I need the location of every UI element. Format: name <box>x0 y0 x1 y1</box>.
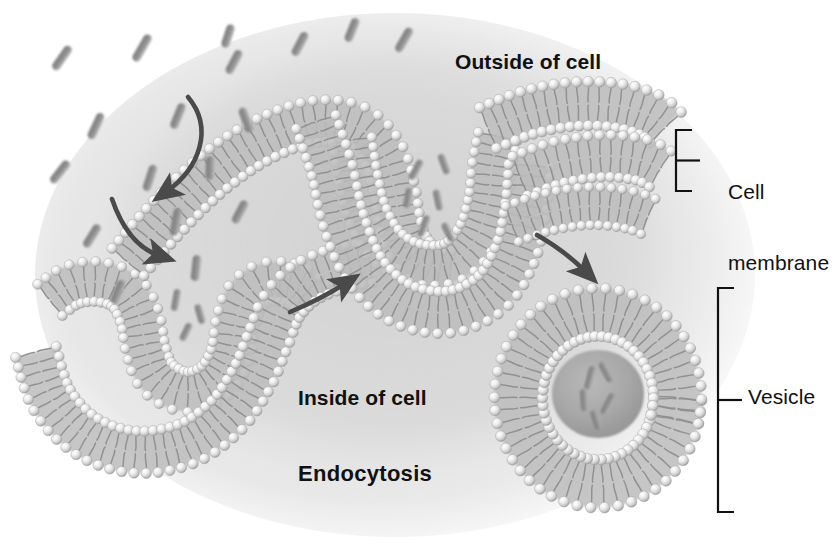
label-endocytosis: Endocytosis <box>298 462 432 487</box>
label-vesicle: Vesicle <box>748 385 815 409</box>
label-outside-of-cell: Outside of cell <box>455 50 601 74</box>
endocytosis-diagram: Outside of cell Inside of cell Endocytos… <box>0 0 840 555</box>
label-cell-membrane: Cell membrane <box>728 133 829 321</box>
label-inside-of-cell: Inside of cell <box>298 386 427 410</box>
label-cell-membrane-line1: Cell <box>728 180 829 204</box>
label-cell-membrane-line2: membrane <box>728 251 829 275</box>
